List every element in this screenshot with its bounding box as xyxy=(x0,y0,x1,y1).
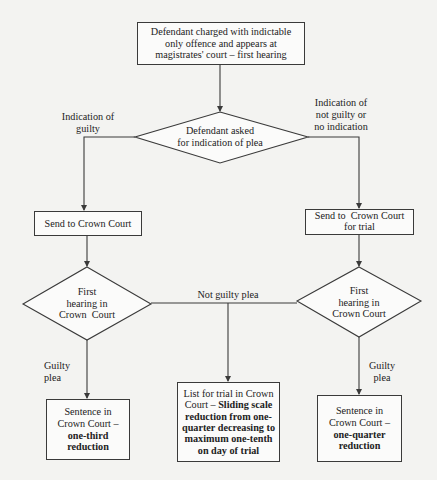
label-line: Indication of xyxy=(58,111,118,123)
trial-list-bold3: maximum one-tenth xyxy=(184,433,272,444)
trial-list-bold2: quarter decreasing to xyxy=(182,422,275,433)
sentence-left-bold2: reduction xyxy=(67,441,109,453)
send-to-crown-court-node: Send to Crown Court xyxy=(34,211,142,236)
trial-list-bold4: on day of trial xyxy=(198,445,259,456)
send-left-text: Send to Crown Court xyxy=(45,218,132,230)
sentence-right-line2: Crown Court – xyxy=(329,417,390,429)
hearing-left-line2: hearing in xyxy=(47,298,127,310)
trial-list-line2-plain: Court – xyxy=(185,399,218,410)
hearing-left-line1: First xyxy=(47,286,127,298)
send-right-line2: for trial xyxy=(344,222,375,233)
label-line: plea xyxy=(364,372,400,384)
sentence-right-line1: Sentence in xyxy=(336,405,383,417)
send-for-trial-node: Send to Crown Court for trial xyxy=(305,209,414,235)
label-guilty-plea-right: Guilty plea xyxy=(364,360,400,384)
hearing-right-text: First hearing in Crown Court xyxy=(319,285,399,320)
sentence-one-third-node: Sentence in Crown Court – one-third redu… xyxy=(46,399,130,460)
hearing-left-text: First hearing in Crown Court xyxy=(47,286,127,321)
sentence-left-line2: Crown Court – xyxy=(57,418,118,430)
sentence-left-line1: Sentence in xyxy=(64,406,111,418)
sentence-right-bold2: reduction xyxy=(339,440,381,452)
trial-list-line2: Court – Sliding scale xyxy=(185,399,272,410)
trial-list-bold1: reduction from one- xyxy=(185,411,272,422)
label-indication-guilty: Indication of guilty xyxy=(58,111,118,135)
sentence-left-bold1: one-third xyxy=(68,430,109,442)
start-text-line3: magistrates' court – first hearing xyxy=(155,49,286,61)
label-line: plea xyxy=(44,372,78,384)
label-line: not guilty or xyxy=(305,109,377,121)
hearing-right-line2: hearing in xyxy=(319,297,399,309)
hearing-right-line3: Crown Court xyxy=(319,308,399,320)
plea-decision-line2: for indication of plea xyxy=(160,137,280,149)
arrow-guilty-branch xyxy=(84,137,135,210)
label-line: no indication xyxy=(305,121,377,133)
label-line: Guilty xyxy=(364,360,400,372)
start-text-line2: only offence and appears at xyxy=(165,38,277,50)
trial-list-line1: List for trial in Crown xyxy=(184,388,274,399)
label-not-guilty-plea: Not guilty plea xyxy=(180,289,276,301)
label-line: guilty xyxy=(58,123,118,135)
label-line: Guilty xyxy=(44,360,78,372)
plea-decision-line1: Defendant asked xyxy=(160,125,280,137)
arrow-not-guilty-branch xyxy=(308,137,359,208)
label-guilty-plea-left: Guilty plea xyxy=(44,360,78,384)
label-indication-not-guilty: Indication of not guilty or no indicatio… xyxy=(305,97,377,133)
label-line: Indication of xyxy=(305,97,377,109)
start-text-line1: Defendant charged with indictable xyxy=(151,26,291,38)
trial-list-line2-bold: Sliding scale xyxy=(218,399,272,410)
flowchart-canvas: Defendant charged with indictable only o… xyxy=(0,0,437,480)
start-node: Defendant charged with indictable only o… xyxy=(137,22,305,65)
sentence-one-quarter-node: Sentence in Crown Court – one-quarter re… xyxy=(317,395,402,462)
plea-decision-text: Defendant asked for indication of plea xyxy=(160,125,280,148)
hearing-left-line3: Crown Court xyxy=(47,309,127,321)
sentence-right-bold1: one-quarter xyxy=(333,429,385,441)
hearing-right-line1: First xyxy=(319,285,399,297)
trial-list-node: List for trial in Crown Court – Sliding … xyxy=(177,382,280,462)
